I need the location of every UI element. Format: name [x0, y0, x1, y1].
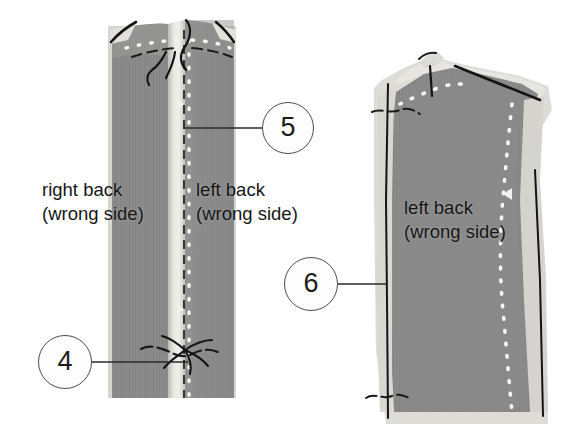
callout-6-number: 6	[303, 270, 318, 297]
label-right-back-line1: right back	[42, 179, 122, 200]
label-right-back: right back (wrong side)	[42, 178, 144, 225]
callout-5[interactable]: 5	[262, 102, 314, 154]
label-left-back-1-line2: (wrong side)	[196, 202, 298, 226]
diagram-canvas: 4 5 6 right back (wrong side) left back …	[0, 0, 584, 445]
label-left-back-2-line1: left back	[404, 197, 473, 218]
callout-4[interactable]: 4	[38, 335, 92, 389]
label-right-back-line2: (wrong side)	[42, 202, 144, 226]
label-left-back-2: left back (wrong side)	[404, 196, 506, 243]
callout-6[interactable]: 6	[284, 257, 338, 311]
left-seam-allowance	[376, 90, 394, 412]
label-left-back-1-line1: left back	[196, 179, 265, 200]
callout-5-number: 5	[280, 114, 295, 141]
label-left-back-1: left back (wrong side)	[196, 178, 298, 225]
label-left-back-2-line2: (wrong side)	[404, 220, 506, 244]
callout-4-number: 4	[57, 348, 72, 375]
center-fold-strip	[168, 20, 185, 398]
